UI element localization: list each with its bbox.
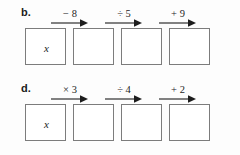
arrow-right-icon (104, 19, 148, 30)
arrow-right-icon (158, 19, 202, 30)
box-b-4[interactable] (169, 28, 210, 65)
box-b-1[interactable]: x (25, 28, 66, 65)
operation-arrow-d-1: × 3 (50, 84, 94, 106)
arrow-right-icon (104, 95, 148, 106)
problem-row-b: b. x − 8 ÷ 5 (0, 0, 240, 78)
operation-label-d-3: + 2 (158, 84, 198, 95)
arrow-right-icon (158, 95, 202, 106)
row-label-b: b. (21, 6, 31, 18)
operation-arrow-d-3: + 2 (158, 84, 202, 106)
box-b-1-value: x (26, 29, 67, 66)
box-d-4[interactable] (169, 104, 210, 141)
box-d-3[interactable] (121, 104, 162, 141)
operation-arrow-b-1: − 8 (50, 8, 94, 30)
operation-label-d-1: × 3 (50, 84, 90, 95)
row-label-d: d. (21, 82, 31, 94)
box-d-3-value (122, 105, 163, 142)
operation-arrow-d-2: ÷ 4 (104, 84, 148, 106)
problem-row-d: d. x × 3 ÷ 4 (0, 77, 240, 155)
worksheet-diagram-page: b. x − 8 ÷ 5 (0, 0, 240, 155)
box-b-2-value (74, 29, 115, 66)
box-b-3[interactable] (121, 28, 162, 65)
box-b-2[interactable] (73, 28, 114, 65)
operation-label-b-2: ÷ 5 (104, 8, 144, 19)
box-d-2-value (74, 105, 115, 142)
box-b-4-value (170, 29, 211, 66)
box-chain-b: x (25, 28, 234, 66)
box-d-1-value: x (26, 105, 67, 142)
box-d-4-value (170, 105, 211, 142)
box-d-2[interactable] (73, 104, 114, 141)
operation-label-d-2: ÷ 4 (104, 84, 144, 95)
operation-label-b-3: + 9 (158, 8, 198, 19)
arrow-right-icon (50, 95, 94, 106)
box-chain-d: x (25, 104, 234, 142)
box-d-1[interactable]: x (25, 104, 66, 141)
operation-label-b-1: − 8 (50, 8, 90, 19)
arrow-right-icon (50, 19, 94, 30)
box-b-3-value (122, 29, 163, 66)
operation-arrow-b-3: + 9 (158, 8, 202, 30)
operation-arrow-b-2: ÷ 5 (104, 8, 148, 30)
